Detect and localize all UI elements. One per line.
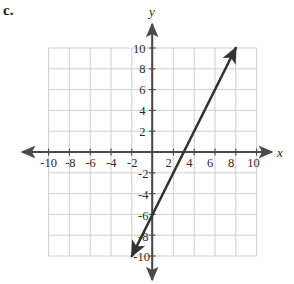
x-tick-label: 2 (165, 156, 171, 170)
graph-figure: c. (0, 0, 294, 284)
x-tick-label: -8 (65, 156, 75, 170)
x-tick-label: -6 (85, 156, 95, 170)
y-tick-label: 8 (139, 62, 145, 76)
x-tick-label: 4 (186, 156, 193, 170)
y-tick-label: 4 (139, 104, 146, 118)
coordinate-plane-svg: -10 -8 -6 -4 -2 2 4 6 8 10 10 8 6 4 2 -2… (0, 0, 294, 284)
x-tick-labels: -10 -8 -6 -4 -2 2 4 6 8 10 (40, 156, 259, 170)
x-tick-label: -2 (127, 156, 137, 170)
y-tick-label: -6 (138, 209, 148, 223)
y-tick-label: -2 (138, 167, 148, 181)
x-tick-label: 10 (247, 156, 260, 170)
x-tick-label: -4 (106, 156, 117, 170)
y-tick-label: 6 (139, 83, 145, 97)
y-tick-label: 10 (133, 42, 146, 56)
y-tick-label: 2 (139, 125, 145, 139)
x-tick-label: -10 (40, 156, 57, 170)
y-tick-label: -10 (133, 250, 150, 264)
x-tick-label: 8 (228, 156, 234, 170)
y-axis-label: y (147, 4, 155, 19)
x-axis-label: x (276, 145, 283, 160)
y-tick-label: -4 (138, 188, 149, 202)
x-tick-label: 6 (207, 156, 213, 170)
